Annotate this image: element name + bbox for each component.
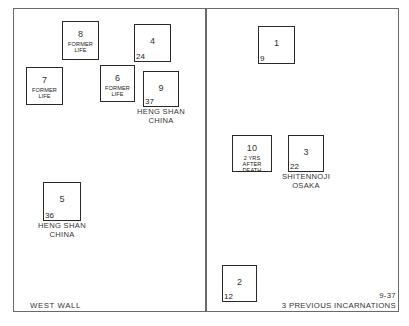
box-note: 2 YRS AFTER DEATH [233,155,271,173]
box-number: 2 [223,277,256,287]
box-2: 212 [222,265,257,302]
box-number: 5 [44,194,80,204]
box-corner-number: 36 [45,211,54,220]
box-number: 3 [289,147,323,157]
west-wall-label: WEST WALL [30,301,81,310]
box-corner-number: 37 [145,97,154,106]
box-caption: HENG SHAN CHINA [126,108,196,125]
box-10: 102 YRS AFTER DEATH [232,135,272,172]
box-corner-number: 12 [224,292,233,301]
box-9: 937 [143,71,179,107]
box-caption: HENG SHAN CHINA [27,222,97,239]
box-number: 7 [27,75,62,85]
box-number: 8 [63,29,98,39]
box-note: FORMER LIFE [27,87,62,99]
box-5: 536 [43,182,81,221]
box-corner-number: 24 [136,52,145,61]
box-7: 7FORMER LIFE [26,67,63,105]
box-number: 9 [144,83,178,93]
box-corner-number: 22 [290,162,299,171]
box-3: 322 [288,135,324,172]
box-number: 10 [233,143,271,153]
box-corner-number: 9 [260,54,264,63]
box-1: 19 [258,26,295,64]
box-note: FORMER LIFE [63,41,98,53]
box-note: FORMER LIFE [101,85,134,97]
box-number: 4 [135,36,170,46]
diagram-title: 3 PREVIOUS INCARNATIONS [282,301,396,310]
box-6: 6FORMER LIFE [100,65,135,102]
box-number: 1 [259,38,294,48]
box-4: 424 [134,24,171,62]
box-8: 8FORMER LIFE [62,21,99,60]
box-caption: SHITENNOJI OSAKA [271,173,341,190]
box-number: 6 [101,73,134,83]
wall-divider [205,8,207,312]
figure-id: 9-37 [379,291,396,300]
